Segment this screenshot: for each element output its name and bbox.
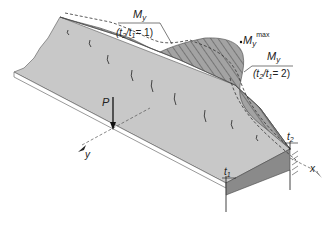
support-hatch: [292, 151, 298, 175]
ratio-label-case1: (t2/t1= 1): [116, 27, 153, 39]
plate-diagram: y x P t2 t1 My (t2/t1= 1) Mymax My (t2/t…: [0, 0, 333, 228]
ratio-label-case2: (t2/t1= 2): [253, 68, 290, 80]
max-point-marker: [240, 41, 242, 43]
moment-label-case1: My: [133, 8, 147, 22]
moment-max-label: Mymax: [243, 31, 270, 48]
axis-x-label: x: [309, 163, 316, 174]
load-label: P: [102, 96, 110, 108]
leader-case2: [244, 66, 252, 72]
axis-y-label: y: [84, 149, 91, 160]
axis-x-arrow-icon: [314, 170, 322, 178]
thickness-2-label: t2: [287, 131, 294, 143]
leader-case1: [160, 23, 172, 44]
moment-label-case2: My: [267, 50, 281, 64]
